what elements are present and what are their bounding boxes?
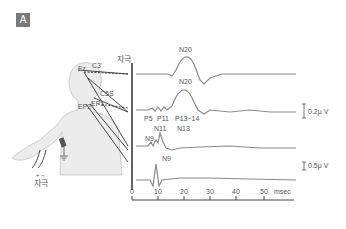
electrode-ep1: EP1 bbox=[91, 100, 104, 107]
label-n13: N13 bbox=[177, 125, 190, 132]
label-p11: P11 bbox=[157, 115, 169, 122]
sep-diagram: Fz C3' C5S EP2 EP1 자극 자극 + − N20 N20 P5 … bbox=[0, 0, 346, 229]
electrode-ep2: EP2 bbox=[78, 103, 91, 110]
polarity-label: + − bbox=[36, 172, 45, 178]
trace-3 bbox=[136, 133, 296, 150]
stimulus-label-top: 자극 bbox=[117, 55, 131, 64]
tick-0: 0 bbox=[130, 188, 134, 195]
scale-bar-0.2 bbox=[302, 104, 306, 118]
label-n20-b: N20 bbox=[179, 78, 192, 85]
tick-10: 10 bbox=[154, 188, 162, 195]
scale-bar-0.5 bbox=[302, 162, 306, 170]
label-p13-14: P13−14 bbox=[175, 115, 199, 122]
label-n9-b: N9 bbox=[162, 155, 171, 162]
electrode-c5s: C5S bbox=[100, 90, 114, 97]
x-axis bbox=[132, 196, 294, 200]
label-n9-a: N9 bbox=[145, 135, 154, 142]
label-p5: P5 bbox=[144, 115, 153, 122]
trace-1 bbox=[136, 57, 296, 84]
electrode-fz: Fz bbox=[78, 65, 86, 72]
tick-40: 40 bbox=[232, 188, 240, 195]
scale-label-0.5: 0.5μ V bbox=[308, 162, 329, 170]
tick-20: 20 bbox=[180, 188, 188, 195]
label-n20-a: N20 bbox=[179, 46, 192, 53]
human-figure bbox=[12, 63, 122, 175]
label-n11: N11 bbox=[154, 125, 166, 132]
stimulus-label-bottom: 자극 bbox=[34, 179, 48, 188]
electrode-c3: C3' bbox=[92, 62, 102, 69]
x-axis-unit: msec bbox=[274, 188, 291, 195]
trace-4 bbox=[136, 164, 296, 186]
tick-30: 30 bbox=[206, 188, 214, 195]
scale-label-0.2: 0.2μ V bbox=[308, 108, 329, 116]
tick-50: 50 bbox=[260, 188, 268, 195]
trace-2 bbox=[136, 90, 296, 114]
